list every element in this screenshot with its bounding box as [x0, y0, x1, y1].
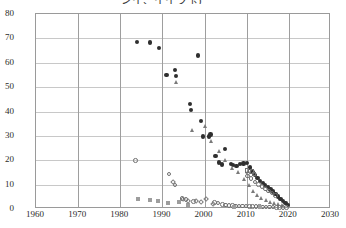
scatter-chart: シイ、イイラ玉) 0102030405060708019601970198019…: [0, 0, 346, 228]
data-point-filled-circle: [157, 46, 161, 50]
y-axis-tick-label: 60: [0, 58, 14, 67]
data-point-filled-circle: [135, 40, 139, 44]
data-point-filled-circle: [164, 73, 168, 77]
y-axis-tick-label: 40: [0, 107, 14, 116]
data-point-open-circle: [133, 158, 138, 163]
x-axis-tick-label: 2020: [268, 210, 308, 219]
data-point-open-circle: [167, 172, 172, 177]
data-point-filled-circle: [220, 162, 224, 166]
data-point-triangle: [223, 158, 227, 162]
data-point-triangle: [190, 128, 194, 132]
data-point-filled-square: [232, 205, 236, 209]
data-point-filled-circle: [148, 40, 152, 44]
gridline-horizontal: [36, 185, 329, 186]
y-axis-tick-label: 0: [0, 204, 14, 213]
data-point-triangle: [217, 149, 221, 153]
x-axis-tick-label: 2030: [310, 210, 346, 219]
data-point-filled-circle: [173, 68, 177, 72]
gridline-horizontal: [36, 38, 329, 39]
y-axis-tick-label: 50: [0, 82, 14, 91]
data-point-filled-circle: [201, 134, 205, 138]
gridline-vertical: [247, 14, 248, 207]
y-axis-tick-label: 70: [0, 33, 14, 42]
data-point-triangle: [174, 80, 178, 84]
gridline-vertical: [78, 14, 79, 207]
y-axis-tick-label: 30: [0, 131, 14, 140]
gridline-vertical: [120, 14, 121, 207]
y-axis-tick-label: 10: [0, 180, 14, 189]
gridline-vertical: [205, 14, 206, 207]
data-point-open-circle: [273, 193, 278, 198]
data-point-triangle: [236, 170, 240, 174]
data-point-filled-circle: [223, 147, 227, 151]
x-axis-tick-label: 1970: [57, 210, 97, 219]
data-point-filled-circle: [213, 154, 217, 158]
data-point-open-diamond: [203, 196, 209, 202]
x-axis-tick-label: 2000: [184, 210, 224, 219]
gridline-horizontal: [36, 63, 329, 64]
gridline-vertical: [162, 14, 163, 207]
plot-area: [35, 13, 330, 208]
data-point-filled-circle: [208, 132, 212, 136]
data-point-triangle: [209, 139, 213, 143]
data-point-triangle: [230, 166, 234, 170]
data-point-open-square: [252, 172, 256, 176]
x-axis-tick-label: 2010: [226, 210, 266, 219]
data-point-filled-circle: [196, 53, 200, 57]
data-point-filled-circle: [174, 74, 178, 78]
gridline-horizontal: [36, 87, 329, 88]
data-point-filled-circle: [188, 102, 192, 106]
x-axis-tick-label: 1990: [141, 210, 181, 219]
gridline-vertical: [289, 14, 290, 207]
data-point-filled-square: [148, 198, 152, 202]
data-point-triangle: [203, 124, 207, 128]
data-point-filled-square: [166, 201, 170, 205]
data-point-open-square: [245, 168, 249, 172]
x-axis-tick-label: 1980: [99, 210, 139, 219]
gridline-horizontal: [36, 136, 329, 137]
data-point-filled-square: [156, 199, 160, 203]
gridline-horizontal: [36, 160, 329, 161]
data-point-filled-square: [258, 205, 262, 209]
gridline-horizontal: [36, 112, 329, 113]
y-axis-tick-label: 80: [0, 9, 14, 18]
data-point-filled-square: [136, 197, 140, 201]
y-axis-tick-label: 20: [0, 155, 14, 164]
chart-title: シイ、イイラ玉): [46, 0, 276, 4]
x-axis-tick-label: 1960: [15, 210, 55, 219]
data-point-triangle: [247, 183, 251, 187]
